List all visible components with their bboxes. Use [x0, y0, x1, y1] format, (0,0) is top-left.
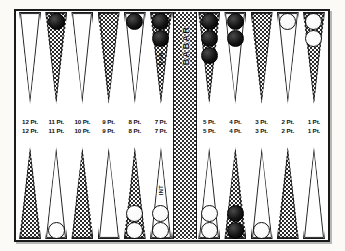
checker-stack[interactable] — [226, 13, 244, 47]
board-half-top: 12 Pt.11 Pt.10 Pt.9 Pt.8 Pt.BAR7 Pt. 6 P… — [17, 12, 327, 127]
point-1-bottom[interactable]: 1 Pt. — [301, 125, 327, 240]
point-label: 3 Pt. — [255, 118, 268, 125]
point-label: 12 Pt. — [22, 127, 38, 134]
point-label: 7 Pt. — [155, 118, 168, 125]
checker-stack[interactable] — [47, 13, 65, 30]
point-label: 2 Pt. — [281, 118, 294, 125]
point-label: 12 Pt. — [22, 118, 38, 125]
checker-white[interactable] — [201, 222, 218, 239]
point-5-top[interactable]: 5 Pt. — [196, 12, 222, 127]
checker-stack[interactable] — [200, 13, 218, 64]
point-2-top[interactable]: 2 Pt. — [275, 12, 301, 127]
checker-stack[interactable] — [126, 205, 144, 239]
checker-white[interactable] — [126, 205, 143, 222]
point-label: 5 Pt. — [203, 118, 216, 125]
checker-stack[interactable] — [279, 13, 297, 30]
point-4-top[interactable]: 4 Pt. — [222, 12, 248, 127]
point-8-bottom[interactable]: 8 Pt. — [122, 125, 148, 240]
point-5-bottom[interactable]: 5 Pt. — [196, 125, 222, 240]
checker-stack[interactable] — [152, 205, 170, 239]
point-triangle — [19, 147, 41, 239]
point-8-top[interactable]: 8 Pt. — [122, 12, 148, 127]
checker-white[interactable] — [305, 13, 322, 30]
checker-stack[interactable] — [305, 13, 323, 47]
point-12-top[interactable]: 12 Pt. — [17, 12, 43, 127]
checker-black[interactable] — [201, 47, 218, 64]
point-note-label: INT — [158, 185, 164, 195]
point-3-bottom[interactable]: 3 Pt. — [249, 125, 275, 240]
checker-white[interactable] — [126, 222, 143, 239]
checker-black[interactable] — [227, 30, 244, 47]
point-label: 1 Pt. — [308, 118, 321, 125]
point-triangle — [251, 12, 273, 104]
point-11-bottom[interactable]: 11 Pt. — [43, 125, 69, 240]
point-label: 4 Pt. — [229, 127, 242, 134]
quadrant-bottom-left: 12 Pt.11 Pt.10 Pt.9 Pt.8 Pt.INT7 Pt. — [17, 125, 174, 240]
point-triangle — [98, 12, 120, 104]
point-label: 11 Pt. — [48, 127, 64, 134]
checker-white[interactable] — [253, 222, 270, 239]
quadrant-top-left: 12 Pt.11 Pt.10 Pt.9 Pt.8 Pt.BAR7 Pt. — [17, 12, 174, 127]
point-label: 2 Pt. — [281, 127, 294, 134]
point-3-top[interactable]: 3 Pt. — [249, 12, 275, 127]
point-note-label: BAR — [158, 52, 164, 65]
checker-white[interactable] — [152, 222, 169, 239]
point-4-bottom[interactable]: 4 Pt. — [222, 125, 248, 240]
checker-black[interactable] — [201, 30, 218, 47]
point-triangle — [71, 12, 93, 104]
point-11-top[interactable]: 11 Pt. — [43, 12, 69, 127]
point-label: 4 Pt. — [229, 118, 242, 125]
backgammon-board: 12 Pt.11 Pt.10 Pt.9 Pt.8 Pt.BAR7 Pt. 6 P… — [14, 9, 330, 242]
checker-white[interactable] — [48, 222, 65, 239]
point-label: 11 Pt. — [48, 118, 64, 125]
point-label: 9 Pt. — [102, 118, 115, 125]
checker-black[interactable] — [152, 30, 169, 47]
checker-stack[interactable] — [253, 222, 271, 239]
bar-label-bottom: BAR — [180, 26, 191, 50]
checker-white[interactable] — [152, 205, 169, 222]
checker-black[interactable] — [201, 13, 218, 30]
point-9-top[interactable]: 9 Pt. — [96, 12, 122, 127]
point-triangle — [19, 12, 41, 104]
checker-black[interactable] — [48, 13, 65, 30]
checker-stack[interactable] — [226, 205, 244, 239]
point-label: 7 Pt. — [155, 127, 168, 134]
point-12-bottom[interactable]: 12 Pt. — [17, 125, 43, 240]
board-half-bottom: 12 Pt.11 Pt.10 Pt.9 Pt.8 Pt.INT7 Pt. 6 P… — [17, 125, 327, 240]
checker-black[interactable] — [227, 13, 244, 30]
checker-white[interactable] — [201, 205, 218, 222]
checker-black[interactable] — [152, 13, 169, 30]
checker-white[interactable] — [279, 13, 296, 30]
checker-stack[interactable] — [152, 13, 170, 47]
point-label: 10 Pt. — [74, 127, 90, 134]
point-9-bottom[interactable]: 9 Pt. — [96, 125, 122, 240]
point-2-bottom[interactable]: 2 Pt. — [275, 125, 301, 240]
point-triangle — [277, 147, 299, 239]
board-bar[interactable]: BAR BAR — [173, 12, 197, 239]
backgammon-board-wrapper: 12 Pt.11 Pt.10 Pt.9 Pt.8 Pt.BAR7 Pt. 6 P… — [14, 9, 330, 242]
checker-black[interactable] — [126, 13, 143, 30]
point-triangle — [98, 147, 120, 239]
point-triangle — [303, 147, 325, 239]
point-label: 3 Pt. — [255, 127, 268, 134]
point-label: 8 Pt. — [128, 118, 141, 125]
checker-stack[interactable] — [126, 13, 144, 30]
point-10-top[interactable]: 10 Pt. — [69, 12, 95, 127]
point-label: 1 Pt. — [308, 127, 321, 134]
point-label: 8 Pt. — [128, 127, 141, 134]
point-label: 10 Pt. — [74, 118, 90, 125]
checker-black[interactable] — [227, 222, 244, 239]
point-1-top[interactable]: 1 Pt. — [301, 12, 327, 127]
point-10-bottom[interactable]: 10 Pt. — [69, 125, 95, 240]
point-label: 5 Pt. — [203, 127, 216, 134]
point-triangle — [71, 147, 93, 239]
checker-stack[interactable] — [47, 222, 65, 239]
checker-white[interactable] — [305, 30, 322, 47]
checker-black[interactable] — [227, 205, 244, 222]
point-label: 9 Pt. — [102, 127, 115, 134]
checker-stack[interactable] — [200, 205, 218, 239]
